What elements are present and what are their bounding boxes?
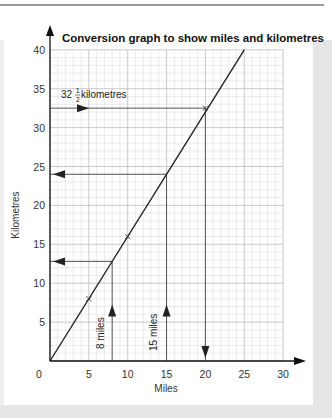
y-tick-label: 25 (33, 161, 45, 173)
annot-15-miles: 15 miles (148, 314, 159, 351)
x-tick-label: 0 (36, 368, 42, 380)
y-tick-label: 15 (33, 238, 45, 250)
annot-km-unit: kilometres (81, 89, 127, 100)
chart-title: Conversion graph to show miles and kilom… (62, 32, 324, 44)
arrow-up-icon (108, 304, 116, 316)
x-tick-label: 15 (161, 368, 173, 380)
annot-km-den: 2 (76, 96, 80, 103)
x-axis-arrow-icon (294, 357, 306, 365)
annot-8-miles: 8 miles (95, 317, 106, 349)
y-tick-label: 40 (33, 44, 45, 56)
y-axis-label: Kilometres (10, 191, 21, 238)
annot-km-whole: 32 (61, 89, 73, 100)
y-tick-label: 30 (33, 122, 45, 134)
x-axis-label: Miles (154, 383, 177, 394)
annot-km-num: 1 (76, 87, 80, 94)
y-tick-label: 10 (33, 277, 45, 289)
x-tick-label: 10 (122, 368, 134, 380)
annotation-32-half-km: 32 1 2 kilometres (61, 87, 127, 103)
y-tick-label: 20 (33, 199, 45, 211)
x-tick-label: 5 (86, 368, 92, 380)
y-tick-label: 35 (33, 83, 45, 95)
y-tick-label: 5 (39, 316, 45, 328)
arrow-right-icon (77, 104, 89, 112)
x-tick-label: 25 (238, 368, 250, 380)
x-tick-label: 30 (277, 368, 289, 380)
arrow-left-icon (53, 170, 65, 178)
arrow-up-icon (163, 304, 171, 316)
axes (46, 25, 306, 365)
arrow-left-icon (53, 257, 65, 265)
x-tick-label: 20 (200, 368, 212, 380)
arrow-down-icon (201, 346, 209, 358)
conversion-chart: 051015202530510152025303540 Conversion g… (0, 0, 332, 418)
y-axis-arrow-icon (46, 25, 54, 36)
